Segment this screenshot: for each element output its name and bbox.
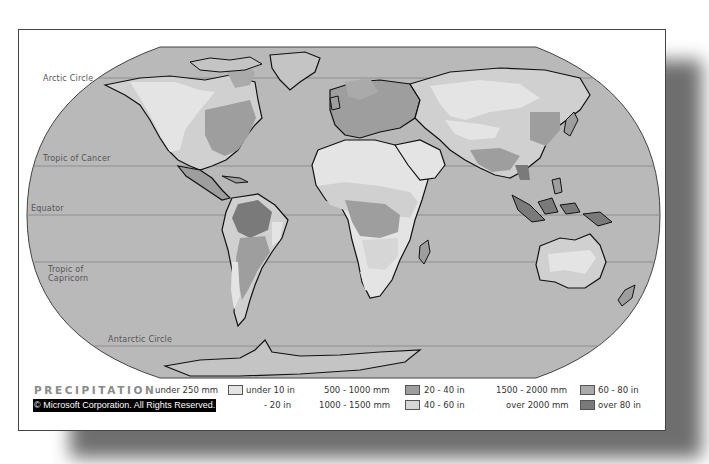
equator-label: Equator: [31, 204, 64, 213]
legend-item-0-mm: under 250 mm: [155, 385, 218, 396]
legend-swatch-4: [580, 385, 595, 395]
legend-item-5-mm: over 2000 mm: [506, 400, 569, 411]
legend-item-1-in: - 20 in: [264, 400, 291, 411]
legend-swatch-2: [405, 385, 420, 395]
legend-swatch-5: [580, 400, 595, 410]
tropic-of-capricorn-label-line2: Capricorn: [48, 274, 88, 283]
antarctic-circle-label: Antarctic Circle: [108, 335, 172, 344]
legend-item-2-in: 20 - 40 in: [424, 385, 465, 396]
legend-item-3-mm: 1000 - 1500 mm: [319, 400, 390, 411]
legend-item-4-mm: 1500 - 2000 mm: [496, 385, 567, 396]
legend-swatch-3: [405, 400, 420, 410]
legend-item-4-in: 60 - 80 in: [598, 385, 639, 396]
tropic-of-capricorn-label: Tropic of Capricorn: [48, 265, 88, 283]
tropic-of-capricorn-label-line1: Tropic of: [48, 265, 88, 274]
british-isles: [330, 96, 340, 110]
legend-item-2-mm: 500 - 1000 mm: [324, 385, 390, 396]
copyright-notice: © Microsoft Corporation. All Rights Rese…: [33, 399, 216, 412]
legend-item-5-in: over 80 in: [598, 400, 641, 411]
tropic-of-cancer-label: Tropic of Cancer: [43, 154, 111, 163]
legend-swatch-0: [228, 385, 243, 395]
legend-item-0-in: under 10 in: [246, 385, 295, 396]
legend-item-3-in: 40 - 60 in: [424, 400, 465, 411]
legend-title: PRECIPITATION: [34, 384, 156, 396]
arctic-circle-label: Arctic Circle: [43, 74, 93, 83]
